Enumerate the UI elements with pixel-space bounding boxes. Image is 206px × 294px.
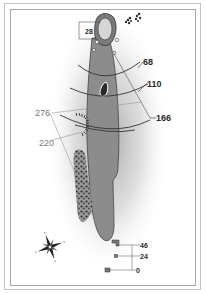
yardage-label-220: 220 [39,138,54,148]
tee-distance-24: 24 [140,253,148,260]
tee-box-middle [115,255,118,258]
greenside-bunker [115,38,119,42]
yardage-label-166: 166 [156,113,171,123]
greenside-bunker [95,40,99,44]
greenside-bunker [92,48,95,51]
yardage-label-110: 110 [147,79,162,89]
yardage-label-68: 68 [143,57,153,67]
hole-diagram: 28 68 110 166 276 220 [0,0,206,294]
putting-surface [98,18,112,40]
tee-distance-46: 46 [140,242,148,249]
tee-distance-0: 0 [136,267,140,274]
yardage-label-276: 276 [35,108,50,118]
green-depth-label: 28 [85,28,93,35]
tee-box-front [105,268,110,272]
